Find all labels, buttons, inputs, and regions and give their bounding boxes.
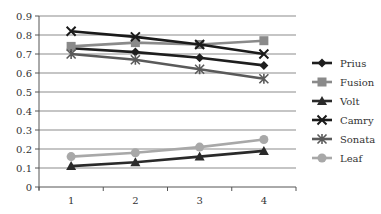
y-tick-label: 0.9 <box>16 11 32 22</box>
diamond-marker-icon <box>318 59 327 68</box>
legend-label: Camry <box>340 115 374 126</box>
y-tick-label: 0.8 <box>16 30 32 41</box>
x-tick-label: 2 <box>132 195 138 206</box>
legend-item-sonata: Sonata <box>312 134 375 145</box>
x-tick-label: 1 <box>68 195 74 206</box>
gridlines <box>39 16 296 168</box>
circle-marker-icon <box>67 152 76 161</box>
x-tick-label: 4 <box>261 195 267 206</box>
legend-item-volt: Volt <box>312 96 360 107</box>
diamond-marker-icon <box>195 53 204 62</box>
legend-label: Prius <box>340 58 366 69</box>
y-tick-label: 0.1 <box>16 163 32 174</box>
legend-label: Sonata <box>340 134 375 145</box>
circle-marker-icon <box>318 154 327 163</box>
legend: PriusFusionVoltCamrySonataLeaf <box>312 58 375 164</box>
legend-label: Volt <box>339 96 360 107</box>
y-tick-label: 0.7 <box>16 49 32 60</box>
y-tick-label: 0.4 <box>16 106 32 117</box>
x-tick-label: 3 <box>196 195 202 206</box>
y-tick-label: 0.3 <box>16 125 32 136</box>
series-leaf <box>67 135 269 161</box>
y-tick-label: 0.2 <box>16 144 32 155</box>
square-marker-icon <box>259 36 268 45</box>
series-line <box>71 54 264 79</box>
y-tick-label: 0 <box>26 182 32 193</box>
circle-marker-icon <box>259 135 268 144</box>
square-marker-icon <box>318 78 327 87</box>
legend-item-camry: Camry <box>312 115 374 126</box>
y-tick-label: 0.6 <box>16 68 32 79</box>
circle-marker-icon <box>131 148 140 157</box>
x-axis: 1234 <box>39 187 296 206</box>
legend-item-fusion: Fusion <box>312 77 375 88</box>
legend-label: Fusion <box>340 77 375 88</box>
y-tick-label: 0.5 <box>16 87 32 98</box>
y-axis: 00.10.20.30.40.50.60.70.80.9 <box>16 11 39 193</box>
legend-item-leaf: Leaf <box>312 153 364 164</box>
legend-label: Leaf <box>340 153 364 164</box>
line-chart: 00.10.20.30.40.50.60.70.80.9 1234 PriusF… <box>0 0 381 214</box>
circle-marker-icon <box>195 143 204 152</box>
legend-item-prius: Prius <box>312 58 366 69</box>
diamond-marker-icon <box>259 61 268 70</box>
series-line <box>71 151 264 166</box>
